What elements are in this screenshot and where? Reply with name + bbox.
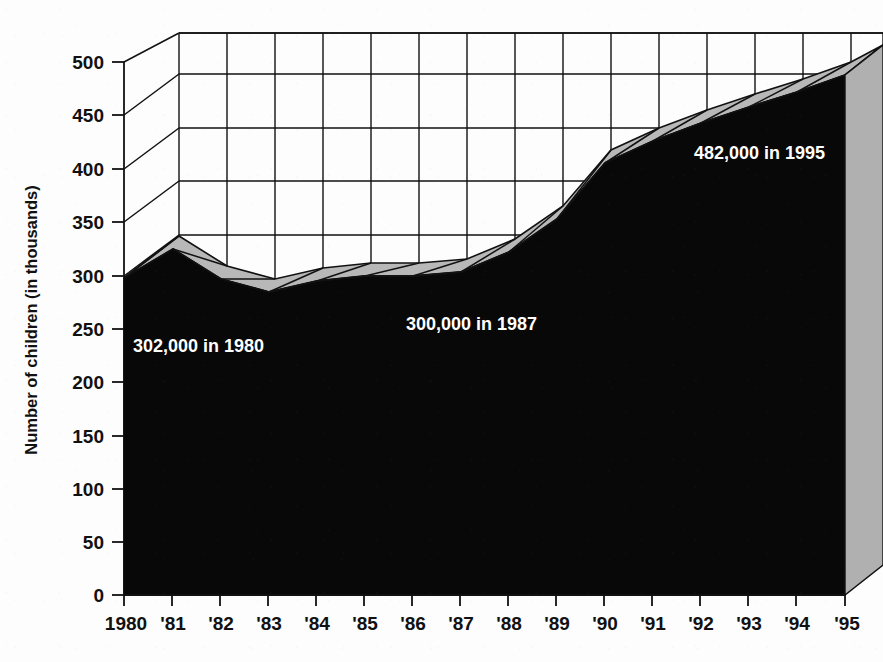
y-axis-tick-labels: 500 450 400 350 300 250 200 150 100 50 0 xyxy=(72,52,104,606)
x-axis-ticks xyxy=(124,595,845,606)
xtick-label-1994: '94 xyxy=(784,613,810,634)
xtick-label-1985: '85 xyxy=(352,613,378,634)
ytick-label-400: 400 xyxy=(72,159,104,180)
ytick-label-500: 500 xyxy=(72,52,104,73)
ytick-label-350: 350 xyxy=(72,212,104,233)
depth-connector-500 xyxy=(124,33,179,62)
xtick-label-1980: 1980 xyxy=(105,613,147,634)
xtick-label-1988: '88 xyxy=(496,613,522,634)
annotation-1995: 482,000 in 1995 xyxy=(694,143,825,163)
xtick-label-1995: '95 xyxy=(834,613,860,634)
ytick-label-450: 450 xyxy=(72,105,104,126)
ytick-label-200: 200 xyxy=(72,372,104,393)
annotation-1980: 302,000 in 1980 xyxy=(133,336,264,356)
annotation-1987: 300,000 in 1987 xyxy=(406,314,537,334)
xtick-label-1992: '92 xyxy=(688,613,714,634)
depth-connector-400 xyxy=(124,128,179,169)
depth-connector-450 xyxy=(124,74,179,115)
ytick-label-0: 0 xyxy=(93,585,104,606)
xtick-label-1993: '93 xyxy=(736,613,762,634)
xtick-label-1981: '81 xyxy=(160,613,186,634)
xtick-label-1987: '87 xyxy=(448,613,474,634)
ribbon-right-side-face xyxy=(845,45,883,595)
ytick-label-150: 150 xyxy=(72,426,104,447)
ytick-label-300: 300 xyxy=(72,266,104,287)
xtick-label-1984: '84 xyxy=(304,613,330,634)
chart-container: 500 450 400 350 300 250 200 150 100 50 0… xyxy=(0,0,883,662)
ytick-label-100: 100 xyxy=(72,479,104,500)
y-axis-ticks xyxy=(112,62,124,595)
area-chart-3d: 500 450 400 350 300 250 200 150 100 50 0… xyxy=(0,0,883,662)
xtick-label-1983: '83 xyxy=(256,613,282,634)
xtick-label-1990: '90 xyxy=(592,613,618,634)
ytick-label-50: 50 xyxy=(83,532,104,553)
ytick-label-250: 250 xyxy=(72,319,104,340)
x-axis-tick-labels: 1980 '81 '82 '83 '84 '85 '86 '87 '88 '89… xyxy=(105,613,860,634)
xtick-label-1991: '91 xyxy=(640,613,666,634)
x-axis xyxy=(124,595,845,606)
xtick-label-1982: '82 xyxy=(208,613,234,634)
xtick-label-1986: '86 xyxy=(400,613,426,634)
depth-connector-350 xyxy=(124,181,179,222)
y-axis-title: Number of children (in thousands) xyxy=(22,185,40,455)
xtick-label-1989: '89 xyxy=(544,613,570,634)
